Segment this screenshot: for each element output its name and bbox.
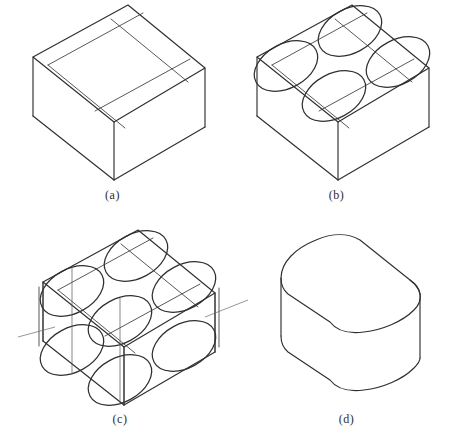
upper-fillet-tangency-d xyxy=(410,280,420,300)
figure-sheet: (a) xyxy=(0,0,449,445)
rounded-block-outline-d xyxy=(281,235,420,391)
box-outline-a xyxy=(33,5,205,180)
panel-c: A B (c) xyxy=(0,222,280,422)
box-outline-c xyxy=(43,230,215,405)
panel-d-caption: (d) xyxy=(244,412,449,427)
panel-c-caption: (c) xyxy=(0,412,240,427)
panel-b-caption: (b) xyxy=(224,188,449,203)
isometric-circles-top-c xyxy=(32,222,225,357)
panel-a: (a) xyxy=(0,0,225,190)
isometric-circles-b xyxy=(246,0,439,132)
box-outline-b xyxy=(257,5,429,180)
annotation-leaders-c xyxy=(18,300,248,337)
panel-a-drawing xyxy=(0,0,225,190)
panel-b-drawing xyxy=(224,0,449,190)
panel-d-drawing xyxy=(244,222,449,422)
panel-d: (d) xyxy=(244,222,449,422)
panel-c-drawing xyxy=(0,222,280,422)
corner-grid-construction-a xyxy=(48,13,190,128)
panel-a-caption: (a) xyxy=(0,188,225,203)
panel-b: (b) xyxy=(224,0,449,190)
